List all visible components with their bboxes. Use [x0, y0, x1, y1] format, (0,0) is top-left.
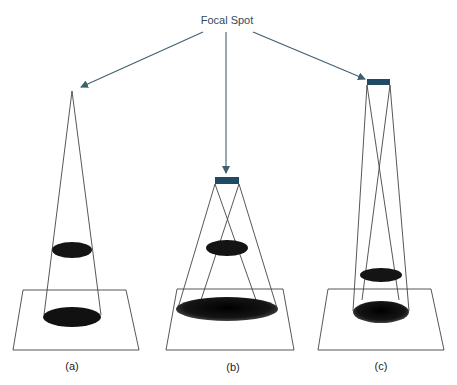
panel-c: [318, 79, 444, 350]
shadow-b: [176, 297, 278, 321]
arrow-to-c: [253, 32, 365, 79]
focal-spot-diagram: [0, 0, 457, 385]
panel-a: [13, 91, 139, 350]
object-c: [360, 268, 402, 282]
panel-label-c: (c): [366, 360, 396, 372]
object-b: [206, 240, 248, 256]
panel-b: [166, 177, 294, 350]
shadow-a: [43, 307, 101, 327]
focal-spot-label: Focal Spot: [187, 14, 267, 26]
panel-label-a: (a): [57, 360, 87, 372]
panel-label-b: (b): [218, 361, 248, 373]
pointer-arrows: [81, 32, 365, 173]
shadow-c: [353, 301, 409, 323]
focal-spot-b: [215, 177, 239, 184]
object-a: [52, 242, 92, 258]
arrow-to-a: [81, 32, 203, 87]
focal-spot-c: [367, 79, 390, 85]
